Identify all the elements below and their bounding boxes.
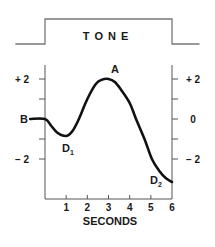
- right-axis-ticks: + 20− 2: [172, 74, 201, 165]
- dip2-subscript: 2: [158, 181, 162, 188]
- dip1-label: D 1: [62, 142, 74, 156]
- left-tick-label: + 2: [15, 74, 30, 85]
- x-tick-label: 3: [106, 202, 112, 213]
- plot-axes: + 2− 2 + 20− 2 123456 SECONDS: [15, 65, 201, 227]
- x-tick-label: 1: [63, 202, 69, 213]
- peak-label: A: [111, 63, 119, 75]
- right-tick-label: − 2: [186, 154, 201, 165]
- baseline-label: B: [20, 113, 28, 125]
- left-tick-label: − 2: [15, 154, 30, 165]
- x-tick-label: 5: [148, 202, 154, 213]
- tone-label: T O N E: [83, 30, 130, 42]
- x-tick-label: 2: [85, 202, 91, 213]
- dip1-letter: D: [62, 142, 70, 154]
- x-tick-label: 4: [127, 202, 133, 213]
- dip1-subscript: 1: [70, 149, 74, 156]
- dip2-label: D 2: [150, 174, 162, 188]
- x-axis-ticks: 123456: [63, 195, 175, 213]
- conditioned-response-figure: T O N E + 2− 2 + 20− 2 123456 SECONDS B …: [0, 0, 215, 247]
- dip2-letter: D: [150, 174, 158, 186]
- x-axis-label: SECONDS: [83, 215, 137, 227]
- tone-stimulus: T O N E: [15, 19, 199, 44]
- right-tick-label: + 2: [186, 74, 201, 85]
- right-tick-label: 0: [190, 114, 196, 125]
- response-curve: [30, 79, 172, 182]
- x-tick-label: 6: [169, 202, 175, 213]
